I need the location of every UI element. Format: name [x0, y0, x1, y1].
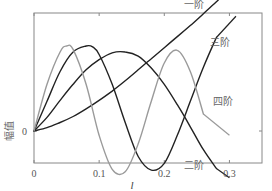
mode-3-curve: [34, 38, 216, 171]
mode-3-label: 三阶: [210, 36, 230, 48]
y-axis-label: 幅值: [3, 121, 15, 141]
mode-2-label: 二阶: [184, 159, 204, 171]
x-tick-label: 0.3: [223, 168, 236, 179]
mode-3-leader-line: [216, 16, 236, 37]
x-tick-label: 0.2: [158, 168, 171, 179]
plot-frame: [34, 13, 262, 163]
mode-shape-chart: 00.10.20.30l幅值一阶二阶三阶四阶: [0, 0, 272, 191]
mode-4-curve: [34, 45, 203, 174]
x-tick-label: 0.1: [93, 168, 106, 179]
mode-4-leader-line: [203, 114, 229, 135]
mode-1-label: 一阶: [184, 0, 204, 10]
x-tick-label: 0: [32, 168, 37, 179]
mode-1-curve: [34, 0, 223, 131]
x-axis-label: l: [130, 179, 133, 191]
y-tick-label: 0: [22, 126, 27, 137]
mode-4-label: 四阶: [213, 95, 233, 107]
